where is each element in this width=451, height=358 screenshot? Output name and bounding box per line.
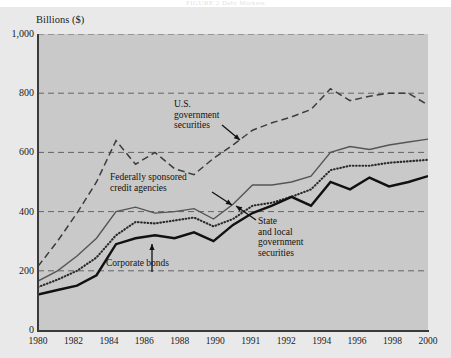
figure-caption: FIGURE 2 Debt Markets [0,0,451,7]
annotation-corporate-bonds: Corporate bonds [106,258,169,269]
y-axis-ticks: 02004006008001,000 [0,0,34,358]
y-tick-label: 1,000 [0,28,34,39]
x-tick-label: 2000 [408,336,448,346]
y-tick-label: 0 [0,324,34,335]
y-tick-label: 200 [0,265,34,276]
x-tick-label: 1998 [373,336,413,346]
annotation-state-and-local-government-securities: State and local government securities [258,216,303,258]
annotation-federally-sponsored-credit-agencies: Federally sponsored credit agencies [110,172,187,193]
series-line [38,176,428,294]
leader-us-government-securities [222,125,240,140]
y-tick-label: 800 [0,87,34,98]
x-tick-label: 1996 [337,336,377,346]
y-tick-label: 600 [0,146,34,157]
annotation-us-government-securities: U.S. government securities [174,99,219,131]
series-line [38,139,428,281]
x-tick-label: 1991 [231,336,271,346]
x-tick-label: 1988 [160,336,200,346]
leader-federally-sponsored-credit-agencies [212,192,232,205]
series-lines [38,89,428,295]
gridlines [38,34,428,271]
x-tick-label: 1986 [124,336,164,346]
chart-svg [38,34,428,330]
plot-area [38,34,428,330]
y-axis-title: Billions ($) [36,14,84,25]
x-tick-label: 1990 [195,336,235,346]
x-tick-label: 1992 [266,336,306,346]
x-tick-label: 1994 [302,336,342,346]
x-tick-label: 1984 [89,336,129,346]
y-tick-label: 400 [0,206,34,217]
x-tick-label: 1980 [18,336,58,346]
y-axis-line [37,34,39,331]
x-axis-line [37,330,429,332]
x-tick-label: 1982 [53,336,93,346]
figure-container: FIGURE 2 Debt Markets Billions ($) 02004… [0,0,451,358]
